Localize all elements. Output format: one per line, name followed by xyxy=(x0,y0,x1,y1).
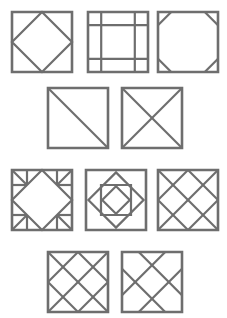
diamond-with-corner-triangle-squares-drawing xyxy=(12,170,72,230)
nested-square-diamond-drawing xyxy=(86,170,146,230)
quilt-block-nested-square-diamond xyxy=(86,170,146,230)
quilt-block-diamond-lattice-four xyxy=(158,170,218,230)
quilt-block-hourglass-quarter-square xyxy=(122,88,182,148)
square-in-a-square-drawing xyxy=(12,12,72,72)
quilt-block-diamond-with-corner-triangle-squares xyxy=(12,170,72,230)
offset-diagonal-lattice-drawing xyxy=(122,252,182,312)
quilt-block-square-in-a-square xyxy=(12,12,72,72)
diamond-lattice-four-drawing xyxy=(158,170,218,230)
quilt-block-snowball-octagon xyxy=(158,12,218,72)
diamond-lattice-with-corner-diagonals-drawing xyxy=(48,252,108,312)
block-outline xyxy=(88,12,148,72)
hourglass-quarter-square-drawing xyxy=(122,88,182,148)
quilt-block-sheet xyxy=(0,0,227,318)
snowball-octagon-drawing xyxy=(158,12,218,72)
nine-patch-grid-drawing xyxy=(88,12,148,72)
half-square-triangle-drawing xyxy=(48,88,108,148)
quilt-block-offset-diagonal-lattice xyxy=(122,252,182,312)
block-outline xyxy=(86,170,146,230)
block-outline xyxy=(122,252,182,312)
quilt-block-half-square-triangle xyxy=(48,88,108,148)
quilt-block-diamond-lattice-with-corner-diagonals xyxy=(48,252,108,312)
block-outline xyxy=(12,12,72,72)
block-outline xyxy=(158,12,218,72)
quilt-block-nine-patch-grid xyxy=(88,12,148,72)
